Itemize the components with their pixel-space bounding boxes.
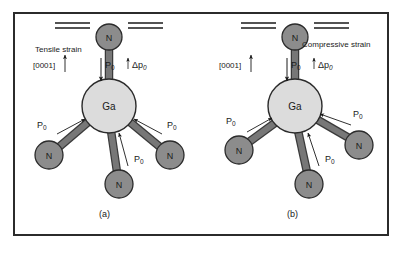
p0-bottom-label-a: P0 — [134, 155, 144, 166]
p0-lower-left-label-a: P0 — [37, 121, 47, 132]
arrow-p0-bottom — [119, 133, 128, 166]
delta-p0-symbol-a: Δp — [132, 60, 143, 70]
strain-lines-right — [314, 23, 349, 28]
strain-label-a: Tensile strain — [35, 46, 82, 54]
p0-bottom-label-b: P0 — [325, 155, 335, 166]
strain-lines-left — [241, 23, 276, 28]
figure-frame: N Ga N N N — [13, 12, 389, 236]
svg-text:Ga: Ga — [102, 101, 116, 112]
p0-bottom-subscript-a: 0 — [140, 158, 144, 165]
delta-p0-subscript-b: 0 — [329, 64, 333, 71]
panel-b: N Ga N N N Compressive strain [0001] — [203, 14, 391, 234]
svg-text:N: N — [46, 151, 53, 161]
panel-a: N Ga N N N — [15, 14, 203, 234]
svg-text:N: N — [356, 141, 363, 151]
strain-label-b: Compressive strain — [302, 41, 370, 49]
delta-p0-label-a: Δp0 — [132, 61, 147, 72]
figure-root: N Ga N N N — [0, 0, 402, 254]
panel-caption-b: (b) — [287, 210, 298, 219]
p0-lower-right-subscript-b: 0 — [359, 113, 363, 120]
panel-caption-a: (a) — [99, 210, 110, 219]
arrow-p0-bottom — [308, 133, 319, 166]
strain-lines-left — [55, 23, 90, 28]
svg-text:N: N — [167, 151, 174, 161]
axial-p0-subscript-a: 0 — [111, 64, 115, 71]
p0-lower-right-label-a: P0 — [167, 121, 177, 132]
p0-bottom-subscript-b: 0 — [331, 158, 335, 165]
p0-lower-left-subscript-a: 0 — [43, 124, 47, 131]
svg-text:N: N — [106, 33, 113, 43]
strain-lines-right — [128, 23, 163, 28]
svg-text:N: N — [292, 33, 299, 43]
svg-text:N: N — [236, 146, 243, 156]
p0-lower-right-label-b: P0 — [353, 110, 363, 121]
svg-text:Ga: Ga — [288, 101, 302, 112]
svg-text:N: N — [306, 180, 313, 190]
delta-p0-label-b: Δp0 — [318, 61, 333, 72]
p0-lower-right-subscript-a: 0 — [173, 124, 177, 131]
svg-text:N: N — [116, 180, 123, 190]
axial-p0-subscript-b: 0 — [297, 64, 301, 71]
axial-p0-label-a: P0 — [105, 61, 115, 72]
direction-label-a: [0001] — [33, 62, 55, 70]
axial-p0-label-b: P0 — [291, 61, 301, 72]
delta-p0-symbol-b: Δp — [318, 60, 329, 70]
p0-lower-left-subscript-b: 0 — [232, 120, 236, 127]
p0-lower-left-label-b: P0 — [226, 117, 236, 128]
delta-p0-subscript-a: 0 — [143, 64, 147, 71]
direction-label-b: [0001] — [219, 62, 241, 70]
